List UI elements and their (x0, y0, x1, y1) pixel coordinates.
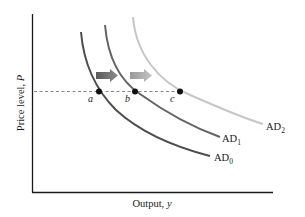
point-c-marker (177, 89, 183, 95)
point-a-marker (96, 89, 102, 95)
point-b-label: b (125, 93, 130, 104)
point-b-marker (132, 89, 138, 95)
shift-arrow-1 (96, 69, 118, 82)
x-axis-title: Output, y (132, 198, 171, 209)
ad2-curve (133, 17, 263, 124)
shift-arrow-2 (130, 69, 152, 82)
aggregate-demand-chart: a b c AD0 AD1 AD2 Output, y Price level,… (0, 0, 305, 217)
point-a-label: a (88, 93, 93, 104)
ad1-label: AD1 (222, 133, 241, 147)
ad1-curve (105, 25, 220, 137)
y-axis-title: Price level, P (15, 74, 26, 131)
point-c-label: c (170, 93, 175, 104)
ad2-label: AD2 (266, 121, 285, 135)
ad0-label: AD0 (214, 152, 233, 166)
